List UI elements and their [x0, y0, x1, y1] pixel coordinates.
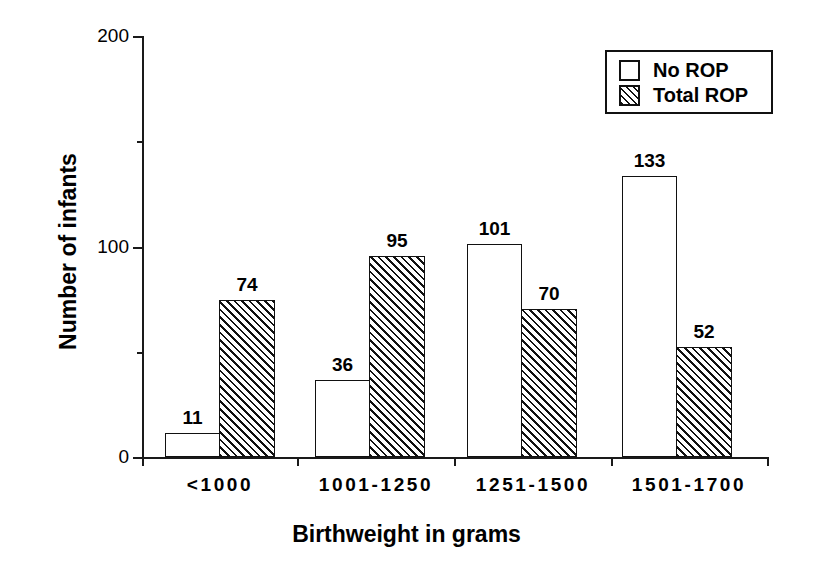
y-tick-label-100: 100: [97, 236, 129, 258]
bar-no-rop-1501-1700: 133: [622, 176, 677, 457]
bar-total-rop-1251-1500: 70: [521, 309, 577, 457]
bar-total-rop-1501-1700: 52: [676, 347, 732, 457]
bar-no-rop-1001-1250: 36: [315, 380, 370, 457]
y-axis-title: Number of infants: [55, 122, 82, 382]
legend-label-no-rop: No ROP: [653, 59, 729, 82]
x-tick-3: [611, 457, 613, 466]
bar-no-rop-1251-1500: 101: [467, 244, 522, 457]
y-axis-spine: [142, 36, 144, 459]
bar-value-label: 95: [386, 230, 407, 252]
bar-chart-figure: Number of infants 200 100 0 <1000 1001-1…: [0, 0, 813, 575]
x-tick-0: [142, 457, 144, 466]
x-tick-label-group-3: 1251-1500: [476, 474, 590, 496]
bar-value-label: 74: [236, 274, 257, 296]
bar-no-rop-lt1000: 11: [165, 433, 220, 457]
y-tick-0: [133, 457, 142, 459]
legend-entry-no-rop: No ROP: [619, 58, 771, 83]
legend: No ROP Total ROP: [605, 50, 773, 114]
legend-entry-total-rop: Total ROP: [619, 83, 771, 108]
legend-swatch-hatched: [619, 85, 640, 106]
bar-total-rop-lt1000: 74: [219, 300, 275, 457]
y-tick-minor-50: [137, 352, 142, 354]
x-tick-label-group-1: <1000: [187, 474, 253, 496]
y-tick-200: [133, 36, 142, 38]
x-tick-label-group-2: 1001-1250: [319, 474, 433, 496]
bar-value-label: 70: [538, 283, 559, 305]
y-tick-label-200: 200: [97, 25, 129, 47]
legend-label-total-rop: Total ROP: [653, 84, 748, 107]
y-tick-100: [133, 247, 142, 249]
bar-value-label: 52: [693, 321, 714, 343]
x-tick-2: [454, 457, 456, 466]
y-tick-label-0: 0: [118, 446, 129, 468]
y-tick-minor-150: [137, 141, 142, 143]
bar-value-label: 133: [634, 150, 666, 172]
x-tick-1: [297, 457, 299, 466]
x-tick-label-group-4: 1501-1700: [632, 474, 746, 496]
legend-swatch-white: [619, 60, 640, 81]
bar-total-rop-1001-1250: 95: [369, 256, 425, 457]
bar-value-label: 11: [182, 407, 202, 429]
x-tick-4: [767, 457, 769, 466]
bar-value-label: 36: [332, 354, 353, 376]
x-axis-title: Birthweight in grams: [0, 521, 813, 548]
bar-value-label: 101: [479, 218, 511, 240]
